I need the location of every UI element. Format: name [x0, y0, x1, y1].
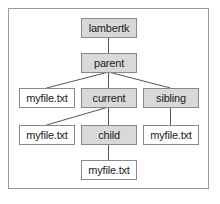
node-child: child	[81, 125, 137, 145]
node-lambertk: lambertk	[81, 18, 137, 38]
edge-parent-file1	[47, 72, 109, 88]
node-parent: parent	[81, 53, 137, 73]
node-myfile-child: myfile.txt	[81, 160, 137, 180]
node-myfile-current: myfile.txt	[19, 125, 75, 145]
node-current: current	[81, 88, 137, 108]
node-sibling: sibling	[143, 88, 199, 108]
edge-current-file2	[47, 107, 109, 125]
node-myfile-sibling: myfile.txt	[143, 125, 199, 145]
edge-parent-sibling	[109, 72, 171, 88]
node-myfile-parent: myfile.txt	[19, 88, 75, 108]
